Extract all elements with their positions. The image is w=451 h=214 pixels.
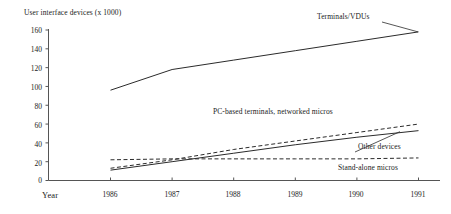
series-line-terminals-vdus [111, 32, 419, 90]
plot-area [0, 0, 451, 214]
series-group [111, 22, 419, 170]
annotation-leader-line [382, 22, 418, 32]
series-line-stand-alone-micros [111, 158, 419, 160]
series-line-pc-based-terminals-networked-micros [111, 124, 419, 168]
line-chart: User interface devices (x 1000) Year 160… [0, 0, 451, 214]
axes-group [46, 29, 441, 181]
series-line-other-devices [111, 131, 419, 171]
